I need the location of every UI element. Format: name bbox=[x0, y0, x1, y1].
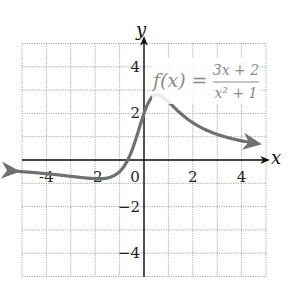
formula-numerator: 3x + 2 bbox=[213, 62, 259, 78]
y-tick-label: −2 bbox=[118, 198, 140, 216]
x-tick-label: 2 bbox=[188, 168, 198, 186]
function-graph: x y -4-2024 42−2−4 f(x) = 3x + 2 x² + 1 bbox=[0, 0, 297, 291]
formula-annotation: f(x) = 3x + 2 x² + 1 bbox=[151, 58, 260, 104]
y-axis-label: y bbox=[135, 19, 147, 40]
y-tick-label: 4 bbox=[130, 58, 140, 76]
formula-denominator: x² + 1 bbox=[214, 85, 257, 101]
x-axis-label: x bbox=[271, 147, 281, 168]
y-tick-label: 2 bbox=[130, 104, 140, 122]
y-tick-label: −4 bbox=[118, 244, 140, 262]
x-tick-label: 0 bbox=[130, 168, 140, 186]
x-tick-label: 4 bbox=[237, 168, 247, 186]
x-tick-label: -4 bbox=[39, 168, 54, 186]
formula-lhs: f(x) = bbox=[151, 69, 208, 91]
